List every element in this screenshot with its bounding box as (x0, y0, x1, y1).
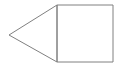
shape-group (9, 5, 113, 62)
triangle-shape (9, 5, 57, 62)
shape-figure (0, 0, 119, 68)
square-shape (57, 5, 113, 62)
diagram-canvas (0, 0, 119, 68)
